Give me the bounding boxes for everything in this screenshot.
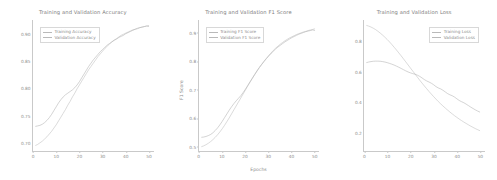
legend-line-icon bbox=[43, 37, 52, 38]
legend-line-icon bbox=[43, 32, 52, 33]
legend-line-icon bbox=[432, 32, 441, 33]
legend-item-training-loss: Training Loss bbox=[432, 30, 475, 34]
legend-label-validation-f1: Validation F1 Score bbox=[220, 36, 260, 40]
x-axis-tick-label: 0 bbox=[363, 154, 366, 159]
legend-item-validation-loss: Validation Loss bbox=[432, 36, 475, 40]
y-axis-tick-label: 0.6 bbox=[355, 69, 362, 74]
panel-f1score-legend: Training F1 Score Validation F1 Score bbox=[206, 27, 265, 43]
panel-accuracy-legend: Training Accuracy Validation Accuracy bbox=[40, 27, 100, 43]
panel-f1score: Training and Validation F1 Score F1 Scor… bbox=[166, 0, 332, 180]
legend-item-validation-accuracy: Validation Accuracy bbox=[43, 36, 96, 40]
legend-line-icon bbox=[209, 32, 218, 33]
y-axis-tick-label: 0.85 bbox=[21, 58, 31, 63]
legend-label-training-loss: Training Loss bbox=[444, 30, 471, 34]
x-axis-tick-label: 20 bbox=[77, 154, 82, 159]
panel-accuracy: Training and Validation Accuracy Trainin… bbox=[0, 0, 166, 180]
x-axis-tick-label: 40 bbox=[289, 154, 294, 159]
legend-label-validation-loss: Validation Loss bbox=[444, 36, 475, 40]
y-axis-tick-label: 0.80 bbox=[21, 86, 31, 91]
y-axis-tick-label: 0.2 bbox=[355, 130, 362, 135]
y-axis-tick-label: 0.4 bbox=[355, 100, 362, 105]
y-axis-tick-label: 0.8 bbox=[189, 59, 196, 64]
x-axis-tick-label: 20 bbox=[242, 154, 247, 159]
panel-f1score-xlabel: Epochs bbox=[198, 167, 320, 172]
x-axis-tick-label: 50 bbox=[146, 154, 151, 159]
panel-f1score-plot-area: Training F1 Score Validation F1 Score 0.… bbox=[198, 20, 320, 152]
x-axis-tick-label: 10 bbox=[53, 154, 58, 159]
x-axis-tick-label: 10 bbox=[385, 154, 390, 159]
panel-accuracy-plot-area: Training Accuracy Validation Accuracy 0.… bbox=[32, 20, 154, 152]
x-axis-tick-label: 20 bbox=[408, 154, 413, 159]
panel-f1score-title: Training and Validation F1 Score bbox=[166, 9, 332, 15]
x-axis-tick-label: 10 bbox=[219, 154, 224, 159]
series-line bbox=[201, 29, 315, 147]
legend-item-training-accuracy: Training Accuracy bbox=[43, 30, 96, 34]
y-axis-tick-label: 0.7 bbox=[189, 87, 196, 92]
panel-f1score-ylabel: F1 Score bbox=[179, 80, 184, 100]
x-axis-tick-label: 30 bbox=[431, 154, 436, 159]
x-axis-tick-label: 30 bbox=[100, 154, 105, 159]
panel-loss: Training and Validation Loss Training Lo… bbox=[331, 0, 497, 180]
panel-loss-title: Training and Validation Loss bbox=[331, 9, 497, 15]
legend-label-training-f1: Training F1 Score bbox=[220, 30, 256, 34]
y-axis-tick-label: 0.8 bbox=[355, 39, 362, 44]
panel-accuracy-title: Training and Validation Accuracy bbox=[0, 9, 166, 15]
y-axis-tick-label: 0.70 bbox=[21, 140, 31, 145]
series-line bbox=[35, 25, 149, 145]
y-axis-tick-label: 0.5 bbox=[189, 144, 196, 149]
x-axis-tick-label: 50 bbox=[312, 154, 317, 159]
x-axis-tick-label: 30 bbox=[266, 154, 271, 159]
y-axis-tick-label: 0.9 bbox=[189, 30, 196, 35]
x-axis-tick-label: 50 bbox=[478, 154, 483, 159]
series-line bbox=[201, 30, 315, 137]
panel-loss-legend: Training Loss Validation Loss bbox=[429, 27, 479, 43]
figure-three-panel-training-curves: Training and Validation Accuracy Trainin… bbox=[0, 0, 497, 180]
legend-label-validation-accuracy: Validation Accuracy bbox=[55, 36, 96, 40]
x-axis-tick-label: 40 bbox=[123, 154, 128, 159]
legend-label-training-accuracy: Training Accuracy bbox=[55, 30, 92, 34]
y-axis-tick-label: 0.75 bbox=[21, 113, 31, 118]
legend-item-validation-f1: Validation F1 Score bbox=[209, 36, 261, 40]
y-axis-tick-label: 0.6 bbox=[189, 116, 196, 121]
x-axis-tick-label: 0 bbox=[32, 154, 35, 159]
panel-loss-plot-area: Training Loss Validation Loss 0.80.60.40… bbox=[363, 20, 485, 152]
legend-line-icon bbox=[209, 37, 218, 38]
x-axis-tick-label: 40 bbox=[454, 154, 459, 159]
legend-line-icon bbox=[432, 37, 441, 38]
x-axis-tick-label: 0 bbox=[197, 154, 200, 159]
legend-item-training-f1: Training F1 Score bbox=[209, 30, 261, 34]
series-line bbox=[367, 61, 481, 112]
y-axis-tick-label: 0.90 bbox=[21, 31, 31, 36]
